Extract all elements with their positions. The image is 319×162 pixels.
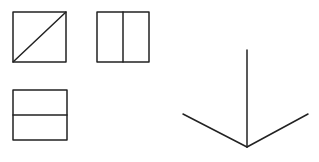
square-vertical-split: [97, 12, 149, 62]
left-arm-line: [183, 114, 247, 147]
arrow-y-shape: [183, 50, 308, 147]
diagonal-line: [13, 12, 66, 62]
diagram-canvas: [0, 0, 319, 162]
square-diagonal: [13, 12, 66, 62]
right-arm-line: [247, 114, 308, 147]
rect-horizontal-split: [13, 90, 67, 140]
